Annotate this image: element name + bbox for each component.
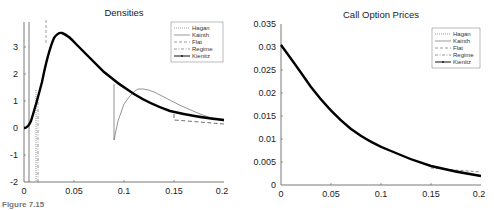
svg-text:Hagan: Hagan [453,31,471,37]
svg-text:Kainth: Kainth [453,38,470,44]
densities-title: Densities [104,7,143,18]
svg-text:Regime: Regime [192,46,213,52]
svg-text:Kainth: Kainth [192,32,209,38]
svg-text:Hagan: Hagan [192,25,210,31]
svg-text:0.15: 0.15 [422,189,440,199]
svg-text:0.025: 0.025 [253,65,276,75]
call-prices-chart: Call Option Prices 0.035 0.03 0.025 0.02… [253,9,485,199]
svg-text:0.2: 0.2 [473,189,486,199]
figure: Densities 3 2 1 0 -1 -2 0 0.05 0.1 0.15 … [0,0,494,210]
figure-caption: Figure 7.15 [2,200,44,209]
svg-text:Flat: Flat [192,39,202,45]
svg-text:0.1: 0.1 [118,186,131,196]
svg-text:0.035: 0.035 [253,19,276,29]
call-prices-legend: Hagan Kainth Flat Regime Kienitz [432,28,480,68]
svg-text:Kienitz: Kienitz [453,59,471,65]
svg-text:0.05: 0.05 [65,186,83,196]
svg-text:0.05: 0.05 [322,189,340,199]
svg-text:2: 2 [13,69,18,79]
svg-text:0: 0 [13,123,18,133]
svg-text:0.02: 0.02 [258,88,276,98]
svg-text:0.2: 0.2 [216,186,229,196]
svg-text:0: 0 [278,189,283,199]
svg-text:0.005: 0.005 [253,157,276,167]
y-tick-labels: 0.035 0.03 0.025 0.02 0.015 0.01 0.005 0 [253,19,276,190]
densities-chart: Densities 3 2 1 0 -1 -2 0 0.05 0.1 0.15 … [10,7,228,196]
call-prices-title: Call Option Prices [343,9,419,20]
svg-text:0.01: 0.01 [258,134,276,144]
svg-text:0: 0 [21,186,26,196]
y-tick-labels: 3 2 1 0 -1 -2 [10,42,18,187]
svg-text:Kienitz: Kienitz [192,53,210,59]
svg-text:0: 0 [271,180,276,190]
svg-text:1: 1 [13,96,18,106]
svg-text:0.015: 0.015 [253,111,276,121]
svg-text:0.03: 0.03 [258,42,276,52]
x-tick-labels: 0 0.05 0.1 0.15 0.2 [278,189,485,199]
svg-text:0.1: 0.1 [375,189,388,199]
svg-text:Flat: Flat [453,45,463,51]
svg-text:-1: -1 [10,150,18,160]
densities-legend: Hagan Kainth Flat Regime Kienitz [171,22,223,62]
svg-text:3: 3 [13,42,18,52]
x-tick-labels: 0 0.05 0.1 0.15 0.2 [21,186,228,196]
svg-text:Regime: Regime [453,52,474,58]
svg-text:0.15: 0.15 [165,186,183,196]
svg-text:-2: -2 [10,177,18,187]
